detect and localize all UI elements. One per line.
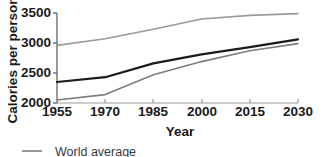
series-lines bbox=[57, 14, 298, 100]
x-tick-label: 1955 bbox=[42, 104, 73, 119]
x-tick-label: 2000 bbox=[187, 104, 217, 119]
series-line-world-average bbox=[57, 39, 298, 82]
x-axis-title: Year bbox=[166, 124, 195, 139]
x-tick-label: 2030 bbox=[283, 104, 313, 119]
series-line-industrial-countries bbox=[57, 14, 298, 46]
series-line-developing-countries bbox=[57, 44, 298, 100]
y-axis-title: Calories per person bbox=[5, 0, 20, 123]
chart-legend: World average bbox=[22, 145, 136, 157]
x-tick-label: 1970 bbox=[90, 104, 120, 119]
legend-label-world-average: World average bbox=[55, 145, 136, 157]
x-tick-label: 2015 bbox=[235, 104, 266, 119]
y-axis-tick-labels: 3500 3000 2500 2000 bbox=[21, 5, 51, 110]
line-chart: Calories per person 3500 3000 2500 2000 bbox=[0, 0, 336, 157]
x-axis-tick-labels: 1955 1970 1985 2000 2015 2030 bbox=[42, 104, 313, 119]
y-tick-label: 3500 bbox=[21, 5, 51, 20]
x-tick-label: 1985 bbox=[138, 104, 169, 119]
y-tick-label: 2500 bbox=[21, 65, 51, 80]
y-tick-label: 3000 bbox=[21, 35, 51, 50]
chart-figure: Calories per person 3500 3000 2500 2000 bbox=[0, 0, 336, 157]
